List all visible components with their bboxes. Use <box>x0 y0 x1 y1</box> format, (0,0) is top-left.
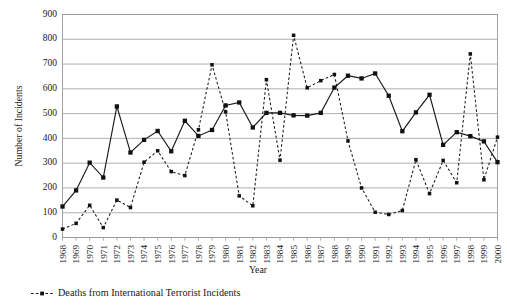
x-axis-tick-label: 1975 <box>153 245 163 264</box>
data-point-marker <box>142 160 146 164</box>
y-axis-tick-label: 600 <box>43 83 58 93</box>
chart-canvas: 0100200300400500600700800900 19681969197… <box>0 0 507 307</box>
x-axis-tick-label: 1987 <box>316 245 326 264</box>
x-axis-tick-label: 1972 <box>112 245 122 264</box>
data-point-marker <box>427 93 431 97</box>
data-point-marker <box>414 158 418 162</box>
x-axis-tick-label: 1984 <box>275 245 285 264</box>
data-point-marker <box>482 178 486 182</box>
data-point-marker <box>455 181 459 185</box>
y-axis-tick-label: 300 <box>43 157 58 167</box>
data-point-marker <box>387 213 391 217</box>
y-axis-tick-label: 900 <box>43 9 58 19</box>
x-axis-tick-label: 1985 <box>289 245 299 264</box>
data-point-marker <box>142 138 146 142</box>
x-axis-tick-label: 1993 <box>398 245 408 264</box>
data-point-marker <box>156 129 160 133</box>
x-axis-tick-label: 1988 <box>330 245 340 264</box>
data-point-marker <box>169 149 173 153</box>
x-axis-tick-label: 1980 <box>221 245 231 264</box>
x-axis-tick-label: 1976 <box>167 245 177 264</box>
x-axis-tick-label: 1996 <box>439 245 449 264</box>
x-axis-tick-labels: 1968196919701971197219731974197519761977… <box>58 245 503 264</box>
data-point-marker <box>74 188 78 192</box>
data-point-marker <box>495 160 499 164</box>
x-axis-tick-label: 1999 <box>479 245 489 264</box>
data-point-marker <box>292 34 296 38</box>
data-point-marker <box>332 85 336 89</box>
x-axis-tick-marks <box>63 238 498 241</box>
y-axis-tick-label: 200 <box>43 182 58 192</box>
x-axis-tick-label: 1995 <box>425 245 435 264</box>
x-axis-tick-label: 1974 <box>139 245 149 264</box>
y-axis-tick-label: 400 <box>43 133 58 143</box>
data-point-marker <box>183 174 187 178</box>
x-axis-tick-label: 1990 <box>357 245 367 264</box>
data-point-marker <box>88 204 92 208</box>
data-point-marker <box>346 139 350 143</box>
x-axis-tick-label: 1979 <box>207 245 217 264</box>
data-point-marker <box>305 113 309 117</box>
data-point-marker <box>115 104 119 108</box>
data-point-marker <box>455 130 459 134</box>
y-axis-tick-label: 800 <box>43 33 58 43</box>
data-point-marker <box>264 111 268 115</box>
data-point-marker <box>291 113 295 117</box>
y-axis-title: Number of Incidents <box>13 85 24 166</box>
data-point-marker <box>305 86 309 90</box>
data-point-marker <box>101 175 105 179</box>
x-axis-tick-label: 1971 <box>99 245 109 264</box>
data-point-marker <box>128 150 132 154</box>
data-point-marker <box>319 79 323 83</box>
data-point-marker <box>74 222 78 226</box>
x-axis-tick-label: 1982 <box>248 245 258 264</box>
x-axis-tick-label: 1978 <box>194 245 204 264</box>
data-point-marker <box>278 158 282 162</box>
data-point-marker <box>360 186 364 190</box>
x-axis-tick-label: 1981 <box>235 245 245 264</box>
data-point-marker <box>333 73 337 77</box>
data-point-marker <box>265 78 269 82</box>
y-axis-tick-label: 700 <box>43 58 58 68</box>
x-axis-tick-label: 1968 <box>58 245 68 264</box>
x-axis-title: Year <box>249 264 268 275</box>
data-point-marker <box>346 74 350 78</box>
chart-legend: Deaths from International Terrorist Inci… <box>31 287 240 298</box>
x-axis-tick-label: 1998 <box>466 245 476 264</box>
data-point-marker <box>88 161 92 165</box>
x-axis-tick-label: 1997 <box>452 245 462 264</box>
y-axis-tick-label: 0 <box>52 232 57 242</box>
data-point-marker <box>251 125 255 129</box>
x-axis-tick-label: 1992 <box>384 245 394 264</box>
data-point-marker <box>237 100 241 104</box>
x-axis-tick-label: 1991 <box>371 245 381 264</box>
data-point-marker <box>61 227 65 231</box>
x-axis-tick-label: 1986 <box>303 245 313 264</box>
data-point-marker <box>183 119 187 123</box>
data-point-marker <box>197 128 201 132</box>
x-axis-tick-label: 1989 <box>343 245 353 264</box>
data-point-marker <box>237 194 241 198</box>
legend-marker-sample <box>40 292 44 296</box>
x-axis-tick-label: 1977 <box>180 245 190 264</box>
x-axis-tick-label: 2000 <box>493 245 503 264</box>
data-point-marker <box>482 139 486 143</box>
data-point-marker <box>441 159 445 163</box>
x-axis-tick-label: 1983 <box>262 245 272 264</box>
data-point-marker <box>102 226 106 230</box>
data-point-marker <box>60 204 64 208</box>
data-point-marker <box>496 135 500 139</box>
data-point-marker <box>387 94 391 98</box>
data-point-marker <box>129 206 133 210</box>
data-point-marker <box>210 63 214 67</box>
data-point-marker <box>156 149 160 153</box>
x-axis-tick-label: 1973 <box>126 245 136 264</box>
data-point-marker <box>278 111 282 115</box>
data-point-marker <box>468 134 472 138</box>
data-point-marker <box>400 129 404 133</box>
data-point-marker <box>319 111 323 115</box>
x-axis-tick-label: 1969 <box>71 245 81 264</box>
data-point-marker <box>401 209 405 213</box>
y-axis-tick-labels: 0100200300400500600700800900 <box>43 9 58 242</box>
data-point-marker <box>115 198 119 202</box>
